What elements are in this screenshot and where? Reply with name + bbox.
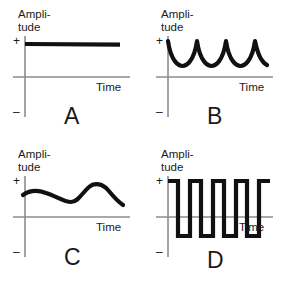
amplitude-label-line2: tude xyxy=(161,161,183,173)
waveform-path-sine xyxy=(168,41,267,66)
panel-b-sine-wave: Ampli- tude + – Time B xyxy=(143,0,286,140)
positive-mark: + xyxy=(13,174,20,188)
panel-letter-d: D xyxy=(207,247,224,273)
positive-mark: + xyxy=(13,34,20,48)
time-label: Time xyxy=(96,81,121,93)
amplitude-label-line1: Ampli- xyxy=(161,8,194,20)
amplitude-label-line2: tude xyxy=(18,161,40,173)
amplitude-label-line1: Ampli- xyxy=(161,148,194,160)
amplitude-label-line2: tude xyxy=(161,21,183,33)
panel-a-constant-wave: Ampli- tude + – Time A xyxy=(0,0,143,140)
waveform-path-constant xyxy=(25,44,120,45)
positive-mark: + xyxy=(156,174,163,188)
waveform-figure: Ampli- tude + – Time A Ampli- tude + – T… xyxy=(0,0,287,281)
amplitude-label-line1: Ampli- xyxy=(18,8,51,20)
panel-letter-a: A xyxy=(64,103,80,129)
time-label: Time xyxy=(239,81,264,93)
negative-mark: – xyxy=(156,105,163,119)
positive-mark: + xyxy=(156,34,163,48)
negative-mark: – xyxy=(156,245,163,259)
negative-mark: – xyxy=(13,245,20,259)
time-label: Time xyxy=(239,221,264,233)
panel-d-square-wave: Ampli- tude + – Time D xyxy=(143,140,286,280)
amplitude-label-line1: Ampli- xyxy=(18,148,51,160)
panel-letter-b: B xyxy=(207,103,222,129)
time-label: Time xyxy=(96,221,121,233)
amplitude-label-line2: tude xyxy=(18,21,40,33)
waveform-path-irregular xyxy=(23,184,123,205)
negative-mark: – xyxy=(13,105,20,119)
panel-c-irregular-wave: Ampli- tude + – Time C xyxy=(0,140,143,280)
panel-letter-c: C xyxy=(64,244,81,270)
